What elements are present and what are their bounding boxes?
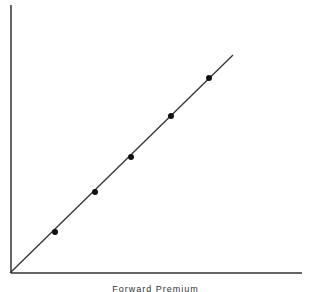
x-axis-label: Forward Premium [0,284,311,292]
data-point [168,113,174,119]
data-point [128,154,134,160]
data-point [52,229,58,235]
fit-line [10,55,233,273]
scatter-chart [0,0,311,292]
data-point [206,75,212,81]
data-point [92,189,98,195]
